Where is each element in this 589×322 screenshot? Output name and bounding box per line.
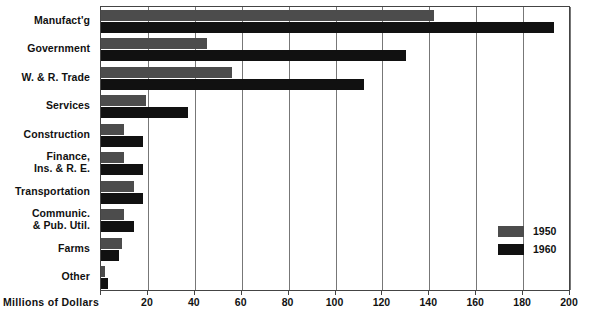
bar-1960-transportation [101,193,143,204]
tick-mark [288,291,289,295]
bar-1950-w-r-trade [101,67,232,78]
bar-chart: Manufact'gGovernmentW. & R. TradeService… [0,0,589,322]
tick-label-40: 40 [188,296,200,308]
bar-1960-construction [101,136,143,147]
tick-mark [475,291,476,295]
bar-1950-transportation [101,181,134,192]
tick-label-200: 200 [560,296,578,308]
bar-1950-other [101,266,105,277]
bar-1950-government [101,38,207,49]
legend-swatch-1950 [498,226,524,237]
category-label-government: Government [27,43,90,55]
category-label-communic-pub-util: Communic. & Pub. Util. [32,208,90,231]
gridline [476,7,477,290]
category-label-services: Services [46,100,90,112]
tick-label-100: 100 [326,296,344,308]
bar-1960-government [101,50,406,61]
category-label-finance-ins-r-e: Finance, Ins. & R. E. [34,151,90,174]
bar-1960-w-r-trade [101,79,364,90]
bar-1960-farms [101,250,119,261]
bar-1960-finance-ins-r-e- [101,164,143,175]
category-label-construction: Construction [23,129,90,141]
tick-mark [381,291,382,295]
axis-title: Millions of Dollars [3,296,99,308]
legend-item-1950: 1950 [498,222,556,240]
tick-label-180: 180 [513,296,531,308]
category-label-manufact-g: Manufact'g [34,15,90,27]
bar-1960-manufact-g [101,22,554,33]
tick-label-160: 160 [466,296,484,308]
tick-mark [194,291,195,295]
category-label-farms: Farms [58,243,90,255]
tick-label-120: 120 [373,296,391,308]
bar-1950-manufact-g [101,10,434,21]
tick-mark [100,291,101,295]
chart-legend: 19501960 [498,222,556,258]
bar-1950-finance-ins-r-e- [101,152,124,163]
bar-1950-construction [101,124,124,135]
tick-label-60: 60 [235,296,247,308]
legend-label-1960: 1960 [533,243,556,255]
bar-1960-communic-pub-util- [101,221,134,232]
category-label-transportation: Transportation [15,186,90,198]
bar-1950-services [101,95,146,106]
tick-mark [428,291,429,295]
legend-swatch-1960 [498,244,524,255]
tick-mark [335,291,336,295]
tick-mark [147,291,148,295]
bar-1950-farms [101,238,122,249]
tick-mark [569,291,570,295]
bar-1960-services [101,107,188,118]
gridline [429,7,430,290]
tick-label-80: 80 [282,296,294,308]
category-label-other: Other [61,271,90,283]
legend-label-1950: 1950 [533,225,556,237]
bar-1950-communic-pub-util- [101,209,124,220]
legend-item-1960: 1960 [498,240,556,258]
bar-1960-other [101,278,108,289]
category-label-w-r-trade: W. & R. Trade [22,72,90,84]
tick-mark [522,291,523,295]
tick-label-140: 140 [420,296,438,308]
value-axis: 20406080100120140160180200 [100,291,571,313]
gridline [570,7,571,290]
tick-mark [241,291,242,295]
tick-label-20: 20 [141,296,153,308]
category-axis-labels: Manufact'gGovernmentW. & R. TradeService… [0,0,96,291]
